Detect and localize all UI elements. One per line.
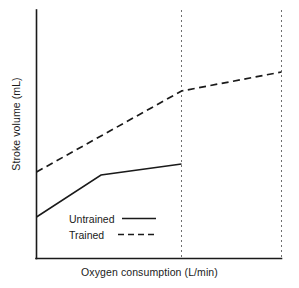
stroke-volume-chart: Stroke volume (mL) Oxygen consumption (L… — [0, 0, 299, 288]
legend-label-trained: Trained — [69, 229, 104, 241]
y-axis-title: Stroke volume (mL) — [10, 44, 22, 204]
series-line-trained — [37, 72, 282, 172]
series-line-untrained — [37, 164, 182, 217]
chart-plot-area — [0, 0, 299, 288]
legend-label-untrained: Untrained — [69, 213, 115, 225]
x-axis-title: Oxygen consumption (L/min) — [0, 266, 299, 278]
